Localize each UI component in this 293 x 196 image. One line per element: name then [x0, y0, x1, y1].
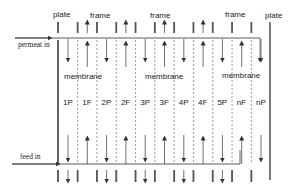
frame-bar-bottom [250, 170, 252, 182]
frame-bar-top [77, 22, 79, 33]
column-label-2f: 2F [121, 99, 130, 107]
frame-bar-top [135, 22, 137, 33]
frame-bar-bottom [231, 170, 233, 182]
frame-bar-bottom [212, 170, 214, 182]
column-label-2p: 2P [102, 99, 112, 107]
plate-left-label: plate [53, 11, 70, 19]
frame-bar-bottom [173, 170, 175, 182]
plate-bar-bottom [57, 170, 59, 182]
column-label-4f: 4F [198, 99, 207, 107]
frame-bar-top [231, 22, 233, 33]
frame-bar-top [193, 22, 195, 33]
frame-label-2: frame [150, 12, 170, 20]
frame-bar-top [115, 22, 117, 33]
frame-bar-top [250, 22, 252, 33]
membrane-label-1: membrane [64, 73, 102, 81]
frame-bar-bottom [135, 170, 137, 182]
membrane-label-2: membrane [145, 73, 183, 81]
frame-bar-bottom [154, 170, 156, 182]
permeat-in-label: permeat in [18, 41, 50, 49]
column-label-5p: 5P [217, 99, 227, 107]
frame-bar-bottom [193, 170, 195, 182]
frame-label-1: frame [90, 12, 110, 20]
column-label-1f: 1F [82, 99, 91, 107]
frame-bar-bottom [96, 170, 98, 182]
column-label-3f: 3F [160, 99, 169, 107]
column-label-3p: 3P [140, 99, 150, 107]
plate-bar-top [57, 22, 59, 33]
frame-bar-bottom [115, 170, 117, 182]
column-label-nf: nF [237, 99, 246, 107]
plate-right-label: plate [265, 12, 282, 20]
column-label-4p: 4P [179, 99, 189, 107]
column-label-np: nP [256, 99, 266, 107]
frame-bar-top [173, 22, 175, 33]
frame-bar-top [96, 22, 98, 33]
feed-in-label: feed in [20, 153, 41, 161]
frame-bar-bottom [77, 170, 79, 182]
frame-bar-top [154, 22, 156, 33]
membrane-label-3: membrane [222, 72, 260, 80]
frame-bar-top [212, 22, 214, 33]
column-label-1p: 1P [63, 99, 73, 107]
frame-label-3: frame [225, 11, 245, 19]
